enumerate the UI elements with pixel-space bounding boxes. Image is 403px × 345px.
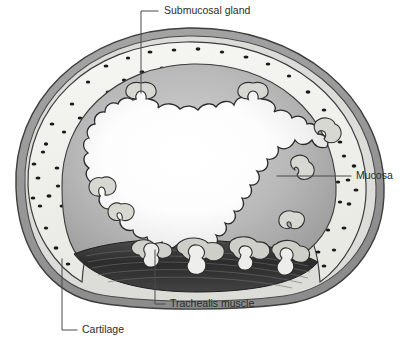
post-gland-1b: [143, 243, 159, 267]
post-gland-3b: [238, 246, 253, 270]
label-submucosal-gland: Submucosal gland: [164, 4, 251, 16]
label-cartilage: Cartilage: [82, 323, 124, 335]
trachea-cross-section-figure: Submucosal gland Mucosa Trachealis muscl…: [0, 0, 403, 345]
post-gland-2b: [187, 245, 206, 274]
label-trachealis-muscle: Trachealis muscle: [170, 297, 254, 309]
label-mucosa: Mucosa: [356, 169, 393, 181]
gland-right-bottom: [279, 211, 305, 229]
trachea-diagram-svg: Submucosal gland Mucosa Trachealis muscl…: [0, 0, 403, 345]
